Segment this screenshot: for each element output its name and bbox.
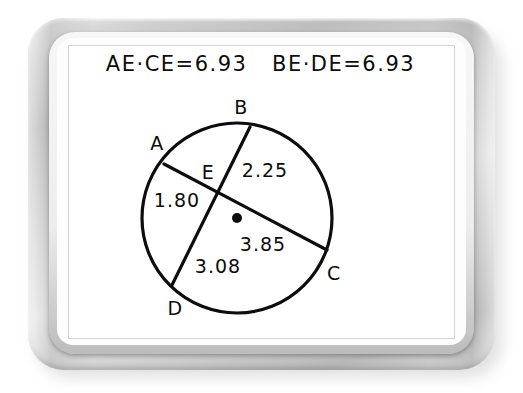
circle-chords-diagram: [0, 0, 523, 393]
screenshot-root: AE·CE=6.93 BE·DE=6.93 ABCDE 1.802.253.85…: [0, 0, 523, 393]
segment-length-ae: 1.80: [154, 189, 200, 211]
point-label-b: B: [234, 96, 248, 118]
segment-length-be: 2.25: [242, 159, 288, 181]
point-label-d: D: [167, 297, 182, 319]
circle-center-dot: [232, 213, 242, 223]
point-label-e: E: [202, 161, 215, 183]
point-label-a: A: [150, 132, 164, 154]
point-label-c: C: [327, 262, 341, 284]
segment-length-ec: 3.85: [240, 233, 286, 255]
segment-length-ed: 3.08: [195, 255, 241, 277]
